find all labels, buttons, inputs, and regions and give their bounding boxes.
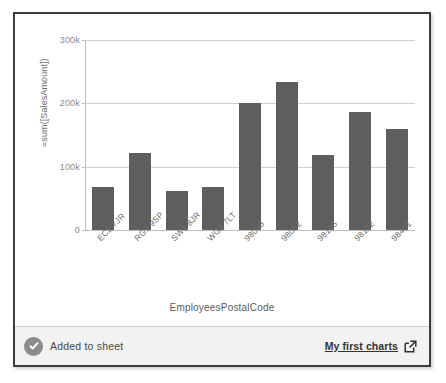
chart-panel: =sum([SalesAmount]) 0100k200k300k EC2 7J… (15, 14, 429, 326)
plot-area: 0100k200k300k EC2 7JRRG1 9SPSW1 8JRWG2 7… (85, 40, 415, 230)
bar[interactable] (276, 82, 298, 230)
y-tick-label: 300k (60, 35, 80, 45)
y-tick-label: 0 (75, 225, 80, 235)
y-tick-label: 100k (60, 162, 80, 172)
y-tick-label: 200k (60, 98, 80, 108)
sheet-link-group[interactable]: My first charts (325, 340, 417, 353)
check-circle-icon (24, 337, 43, 356)
bar[interactable] (239, 103, 261, 230)
bar[interactable] (349, 112, 371, 230)
chart-preview-popup: =sum([SalesAmount]) 0100k200k300k EC2 7J… (13, 12, 431, 367)
y-axis-title: =sum([SalesAmount]) (39, 58, 49, 147)
status-text: Added to sheet (50, 340, 123, 352)
bars-layer (85, 40, 415, 230)
bar[interactable] (386, 129, 408, 230)
x-axis-title: EmployeesPostalCode (15, 302, 429, 313)
y-tick-mark (82, 230, 85, 231)
external-link-icon[interactable] (404, 340, 417, 353)
status-bar: Added to sheet My first charts (15, 326, 429, 365)
status-message-group: Added to sheet (24, 337, 123, 356)
sheet-link[interactable]: My first charts (325, 340, 398, 352)
